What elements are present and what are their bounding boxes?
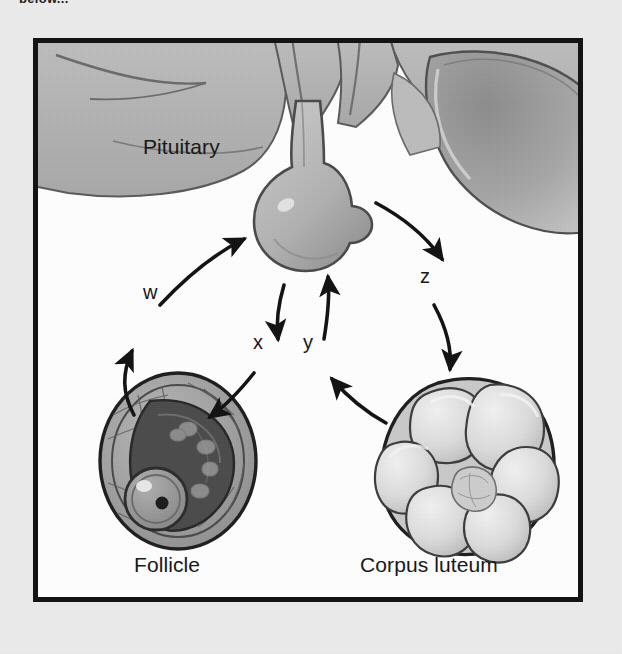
arrow-z-lower: [434, 305, 450, 369]
arrow-y-from-corpus: [332, 379, 386, 423]
label-pathway-x: x: [253, 331, 263, 354]
figure-frame: Pituitary Follicle Corpus luteum w x y z: [33, 38, 583, 602]
corpus-luteum-illustration: [375, 379, 559, 563]
arrow-w-upper: [160, 239, 244, 305]
arrow-z-upper: [376, 203, 442, 259]
arrow-y-up: [324, 277, 329, 339]
label-pituitary: Pituitary: [143, 135, 220, 159]
label-pathway-w: w: [143, 281, 157, 304]
label-pathway-z: z: [420, 265, 430, 288]
top-caption-text: below...: [19, 0, 69, 5]
arrow-x-down: [277, 285, 284, 339]
label-pathway-y: y: [303, 331, 313, 354]
figure-illustration: [38, 43, 578, 597]
label-follicle: Follicle: [134, 553, 200, 577]
label-corpus-luteum: Corpus luteum: [360, 553, 498, 577]
